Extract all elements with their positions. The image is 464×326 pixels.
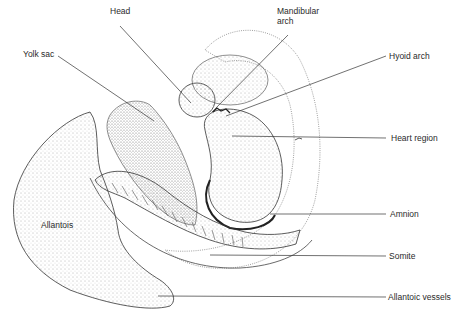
label-somite: Somite xyxy=(389,251,415,261)
label-amnion: Amnion xyxy=(390,209,419,219)
label-hyoid-arch: Hyoid arch xyxy=(389,51,430,61)
label-mandibular-arch-line2: arch xyxy=(277,16,319,26)
label-mandibular-arch: Mandibular arch xyxy=(277,6,319,26)
label-allantoic-vessels: Allantoic vessels xyxy=(388,292,451,302)
vessel-tip xyxy=(295,138,302,140)
label-mandibular-arch-line1: Mandibular xyxy=(277,6,319,16)
heart-region-shape xyxy=(204,109,282,222)
head-upper-shape xyxy=(192,55,268,105)
embryo-illustration xyxy=(0,0,464,326)
embryo-diagram: Head Mandibular arch Yolk sac Hyoid arch… xyxy=(0,0,464,326)
label-head: Head xyxy=(110,6,130,16)
label-heart-region: Heart region xyxy=(391,133,438,143)
label-yolk-sac: Yolk sac xyxy=(23,49,54,59)
label-allantois: Allantois xyxy=(41,220,73,230)
